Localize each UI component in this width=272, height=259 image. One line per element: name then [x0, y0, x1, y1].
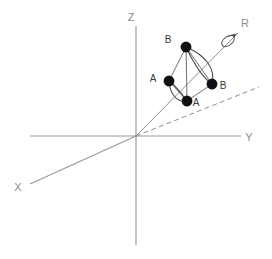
y-axis-label: Y	[245, 131, 253, 143]
diagram-canvas: B A B A Z Y X R	[0, 0, 272, 259]
arcs-group	[169, 47, 213, 101]
atom-b-right	[207, 79, 217, 89]
atom-label-a-bottom: A	[193, 97, 200, 108]
bond-btop-bright	[186, 47, 212, 84]
x-axis-line	[30, 136, 136, 184]
rotation-arrow-icon	[220, 33, 237, 49]
bond-btop-abottom	[186, 47, 187, 101]
atom-label-a-left: A	[150, 73, 157, 84]
z-axis-label: Z	[128, 11, 135, 23]
bond-btop-aleft	[169, 47, 186, 81]
atom-label-b-top: B	[165, 34, 172, 45]
atom-b-top	[181, 42, 191, 52]
rotation-diagram-figure: B A B A Z Y X R	[0, 0, 272, 259]
axis-labels-group: Z Y X R	[14, 11, 253, 193]
atoms-group	[164, 42, 217, 106]
atom-label-b-right: B	[220, 80, 227, 91]
atom-a-left	[164, 76, 174, 86]
axes-group	[30, 26, 241, 245]
x-axis-label: X	[14, 181, 22, 193]
rotation-axis-label: R	[241, 17, 249, 29]
atom-a-bottom	[182, 96, 192, 106]
